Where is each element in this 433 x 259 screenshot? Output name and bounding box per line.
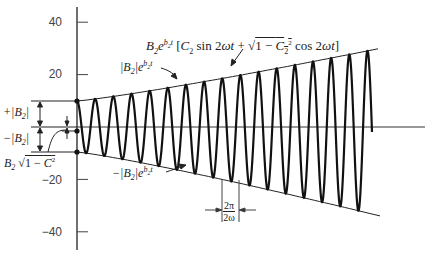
plus-b2-label: +|B2|	[3, 106, 29, 121]
y-tick-label-neg40: −40	[32, 226, 62, 238]
main-formula-body: [C2 sin 2ωt + √1 − C22 cos 2ωt]	[176, 38, 339, 53]
y-tick-label-neg20: −20	[32, 174, 62, 186]
period-label: 2π 2ω	[223, 201, 235, 223]
minus-b2-label: −|B2|	[3, 132, 29, 147]
initial-value-dot	[74, 128, 79, 133]
y-tick-label-40: 40	[32, 16, 62, 28]
y-tick-label-20: 20	[32, 68, 62, 80]
upper-envelope-label: |B2|eb2t	[120, 60, 153, 76]
lower-envelope-label: −|B2|eb2t	[112, 166, 153, 182]
amplitude-dimension-lines	[31, 101, 77, 152]
initial-value-label: B2 √1 − C2	[4, 157, 55, 172]
initial-peak-dot	[74, 98, 79, 103]
initial-trough-dot	[74, 149, 79, 154]
main-formula-label: B2eb2t [C2 sin 2ωt + √1 − C22 cos 2ωt]	[146, 39, 339, 56]
